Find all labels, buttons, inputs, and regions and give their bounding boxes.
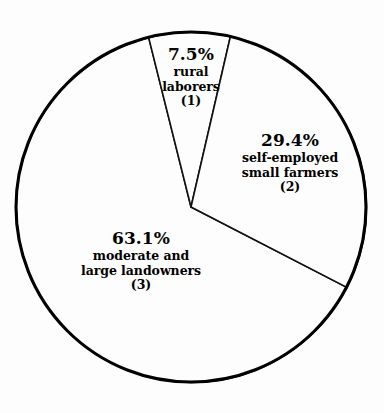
- pie-label-percent: 29.4%: [224, 131, 356, 150]
- pie-label-percent: 7.5%: [141, 45, 241, 64]
- pie-label-moderate-and-large-landowners: 63.1% moderate and large landowners (3): [58, 229, 224, 292]
- pie-label-name-line-1: self-employed: [224, 151, 356, 165]
- pie-label-self-employed-small-farmers: 29.4% self-employed small farmers (2): [224, 131, 356, 194]
- pie-label-percent: 63.1%: [58, 229, 224, 248]
- pie-label-name-line-2: laborers: [141, 80, 241, 94]
- pie-label-name-line-2: small farmers: [224, 166, 356, 180]
- pie-label-name-line-1: rural: [141, 65, 241, 79]
- pie-label-rural-laborers: 7.5% rural laborers (1): [141, 45, 241, 108]
- pie-label-name-line-1: moderate and: [58, 249, 224, 263]
- pie-label-index: (3): [58, 278, 224, 292]
- pie-label-index: (2): [224, 180, 356, 194]
- pie-label-index: (1): [141, 94, 241, 108]
- pie-chart: 7.5% rural laborers (1) 29.4% self-emplo…: [0, 0, 384, 413]
- pie-label-name-line-2: large landowners: [58, 264, 224, 278]
